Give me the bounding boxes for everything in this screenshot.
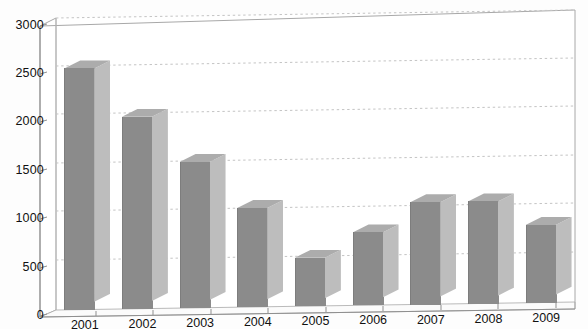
bar-2006 xyxy=(353,224,383,305)
bar-2008 xyxy=(468,193,498,303)
x-tick-2002: 2002 xyxy=(114,317,172,329)
bar-chart: 3000 2500 2000 1500 1000 500 0 200120022… xyxy=(0,0,588,329)
x-tick-2001: 2001 xyxy=(56,318,114,329)
x-tick-2004: 2004 xyxy=(229,315,287,329)
y-tick-3000: 3000 xyxy=(15,18,44,32)
bar-front-face xyxy=(353,232,384,305)
bar-front-face xyxy=(295,258,326,307)
bar-front-face xyxy=(64,68,95,309)
bar-side-face xyxy=(267,200,283,299)
bar-front-face xyxy=(410,202,441,304)
bar-2001 xyxy=(64,60,94,309)
bar-side-face xyxy=(383,224,399,297)
bar-2009 xyxy=(526,217,556,303)
y-tick-2500: 2500 xyxy=(15,66,44,80)
y-tick-500: 500 xyxy=(23,260,44,274)
x-tick-2008: 2008 xyxy=(460,312,518,326)
bar-2003 xyxy=(180,154,210,308)
y-tick-0: 0 xyxy=(37,308,44,322)
bar-side-face xyxy=(440,194,456,296)
bar-2005 xyxy=(295,250,325,307)
y-tick-1000: 1000 xyxy=(15,211,44,225)
bar-front-face xyxy=(180,162,211,308)
bar-side-face xyxy=(94,60,110,301)
bar-side-face xyxy=(210,154,226,300)
x-tick-2007: 2007 xyxy=(402,313,460,327)
bar-front-face xyxy=(526,225,557,303)
bar-side-face xyxy=(152,109,168,301)
x-tick-2005: 2005 xyxy=(287,314,345,328)
bar-front-face xyxy=(237,208,268,307)
bar-front-face xyxy=(122,117,153,309)
bar-2004 xyxy=(237,200,267,307)
bar-side-face xyxy=(556,217,572,295)
y-tick-1500: 1500 xyxy=(15,163,44,177)
bar-side-face xyxy=(325,250,341,299)
x-tick-2009: 2009 xyxy=(517,311,575,325)
bar-front-face xyxy=(468,201,499,303)
bar-2002 xyxy=(122,109,152,309)
bar-2007 xyxy=(410,194,440,304)
y-tick-2000: 2000 xyxy=(15,114,44,128)
bar-side-face xyxy=(498,193,514,295)
x-tick-2003: 2003 xyxy=(171,316,229,329)
x-tick-2006: 2006 xyxy=(344,313,402,327)
